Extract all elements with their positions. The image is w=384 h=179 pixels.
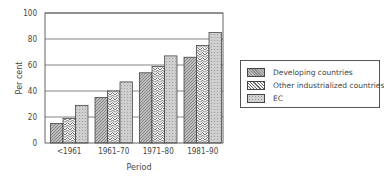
x-tick-label: <1961 [57, 147, 81, 156]
legend-label: EC [273, 94, 283, 103]
legend-label: Developing countries [273, 68, 353, 77]
bar-developing [95, 98, 108, 144]
bar-other-industrialized [108, 91, 121, 143]
y-axis-label: Per cent [15, 62, 24, 95]
x-tick-label: 1971–80 [143, 147, 174, 156]
legend-label: Other industrialized countries [273, 81, 384, 90]
bars [51, 33, 222, 144]
bar-other-industrialized [63, 118, 76, 143]
x-tick-label: 1961–70 [98, 147, 129, 156]
developing-swatch-icon [247, 68, 265, 77]
bar-developing [51, 124, 64, 144]
y-tick-label: 20 [28, 113, 38, 122]
x-tick-label: 1981–90 [187, 147, 218, 156]
y-tick-label: 0 [32, 139, 37, 148]
bar-developing [184, 57, 197, 143]
legend-item-other-industrialized: Other industrialized countries [247, 80, 384, 91]
y-tick-label: 100 [23, 9, 37, 18]
legend-item-developing: Developing countries [247, 67, 353, 78]
legend-item-ec: EC [247, 93, 283, 104]
y-tick-label: 60 [28, 61, 38, 70]
bar-ec [120, 82, 133, 143]
other-industrialized-swatch-icon [247, 81, 265, 90]
bar-other-industrialized [152, 66, 165, 143]
ec-swatch-icon [247, 94, 265, 103]
bar-ec [165, 56, 178, 143]
bar-other-industrialized [197, 46, 210, 144]
y-tick-label: 80 [28, 35, 38, 44]
bar-developing [140, 73, 153, 143]
bar-ec [76, 105, 89, 143]
x-axis-label: Period [127, 163, 152, 172]
y-tick-label: 40 [28, 87, 38, 96]
bar-ec [209, 33, 222, 144]
legend: Developing countries Other industrialize… [240, 60, 380, 108]
